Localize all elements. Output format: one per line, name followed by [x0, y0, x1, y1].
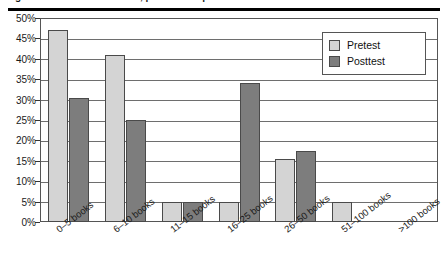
bar-chart: 0%5%10%15%20%25%30%35%40%45%50% 0–5 book…: [0, 0, 447, 271]
x-axis-tick-label: >100 books: [396, 196, 442, 235]
legend-item-posttest: Posttest: [329, 53, 420, 69]
legend-item-pretest: Pretest: [329, 37, 420, 53]
x-axis-tick-label: 0–5 books: [54, 199, 95, 235]
legend-swatch-posttest: [329, 56, 340, 67]
x-axis-tick-label: 26–50 books: [282, 192, 332, 234]
chart-legend: Pretest Posttest: [322, 32, 426, 75]
x-axis-tick-label: 11–15 books: [168, 193, 217, 235]
legend-label-posttest: Posttest: [347, 55, 385, 68]
legend-swatch-pretest: [329, 40, 340, 51]
x-axis-tick-label: 16–25 books: [225, 192, 275, 234]
x-axis-tick-label: 51–100 books: [339, 189, 393, 234]
x-axis-tick-label: 6–10 books: [111, 196, 156, 235]
legend-label-pretest: Pretest: [347, 39, 380, 52]
